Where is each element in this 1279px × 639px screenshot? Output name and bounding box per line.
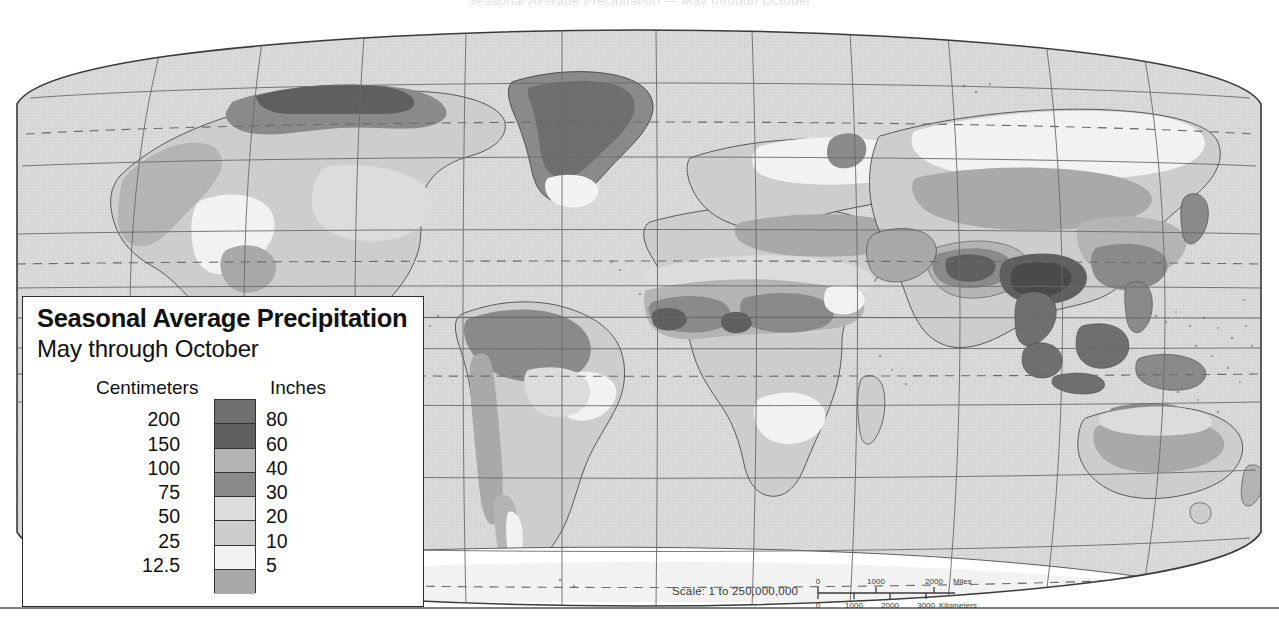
legend-title: Seasonal Average Precipitation <box>37 304 407 333</box>
legend-in-value-10: 10 <box>266 532 288 552</box>
borneo <box>1076 324 1129 369</box>
page-bleed-text: Seasonal Average Precipitation — May thr… <box>0 0 1279 5</box>
africa-extreme-core-cameroon <box>721 312 752 333</box>
legend-swatch-12.5-25-cm <box>215 546 255 570</box>
legend-cm-value-150: 150 <box>147 435 180 455</box>
legend-swatch-over-200-cm <box>215 400 255 424</box>
scale-mile-tick-2000: 2000 <box>925 577 943 586</box>
scale-miles-label: Miles <box>953 577 972 586</box>
legend-cm-value-50: 50 <box>158 507 180 527</box>
scale-mile-tick-0: 0 <box>816 577 821 586</box>
legend-swatch-150-200-cm <box>215 424 255 448</box>
legend-swatch-under-12.5-cm <box>215 570 255 594</box>
legend-cm-value-200: 200 <box>147 410 180 430</box>
scale-mile-tick-1000: 1000 <box>867 577 885 586</box>
legend-in-value-5: 5 <box>266 556 277 576</box>
legend-swatch-25-50-cm <box>215 521 255 545</box>
legend-in-value-30: 30 <box>266 483 288 503</box>
scale-km-tick-0: 0 <box>816 601 821 610</box>
scale-km-tick-2000: 2000 <box>881 601 899 610</box>
legend-header-centimeters: Centimeters <box>96 377 198 399</box>
legend-cm-value-25: 25 <box>158 532 180 552</box>
scale-km-tick-1000: 1000 <box>845 601 863 610</box>
legend-cm-value-75: 75 <box>158 483 180 503</box>
legend-cm-value-12-5: 12.5 <box>142 556 180 576</box>
legend-in-value-40: 40 <box>266 459 288 479</box>
scale-kilometers-label: Kilometers <box>939 601 977 610</box>
africa-extreme-core-west <box>652 308 687 331</box>
legend-in-value-60: 60 <box>266 435 288 455</box>
legend-in-value-20: 20 <box>266 507 288 527</box>
tasmania <box>1190 503 1211 524</box>
legend-swatch-50-75-cm <box>215 497 255 521</box>
australia-north-band <box>1099 407 1212 436</box>
legend-swatch-75-100-cm <box>215 473 255 497</box>
legend-cm-value-100: 100 <box>147 459 180 479</box>
legend-header-inches: Inches <box>270 377 326 399</box>
legend-in-value-80: 80 <box>266 410 288 430</box>
legend-swatch-100-150-cm <box>215 449 255 473</box>
scale-km-tick-3000: 3000 <box>917 601 935 610</box>
legend-swatch-stack <box>214 399 256 593</box>
map-legend: Seasonal Average Precipitation May throu… <box>22 296 424 607</box>
scale-statement: Scale: 1 to 250,000,000 <box>672 585 798 597</box>
scale-bar: 0 1000 2000 Miles 0 1000 2000 3000 Kilom… <box>814 575 990 611</box>
legend-subtitle: May through October <box>37 335 259 363</box>
map-page: Seasonal Average Precipitation — May thr… <box>0 0 1279 639</box>
africa-wet-core-central <box>740 293 834 333</box>
